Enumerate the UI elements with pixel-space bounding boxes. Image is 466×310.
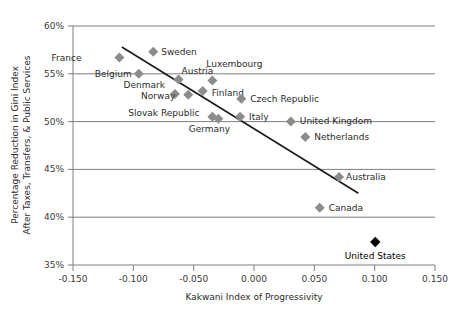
point-marker-austria xyxy=(174,75,184,85)
ytick-label-60: 60% xyxy=(44,21,64,31)
data-point: Netherlands xyxy=(300,132,369,142)
x-axis-ticks xyxy=(73,265,435,271)
data-point: Australia xyxy=(334,172,386,182)
xtick-label-4: 0.050 xyxy=(301,274,327,284)
point-label-norway: Norway xyxy=(141,91,176,101)
data-point: Luxembourg xyxy=(206,59,262,85)
scatter-chart: 60% 55% 50% 45% 40% 35% -0.150 -0.100 -0… xyxy=(0,0,466,310)
point-label-belgium: Belgium xyxy=(95,69,132,79)
point-marker-italy xyxy=(235,112,245,122)
xtick-label-6: 0.150 xyxy=(422,274,448,284)
ytick-label-40: 40% xyxy=(44,212,64,222)
xtick-label-0: -0.150 xyxy=(58,274,87,284)
chart-svg: 60% 55% 50% 45% 40% 35% -0.150 -0.100 -0… xyxy=(0,0,466,310)
xtick-label-2: -0.050 xyxy=(179,274,208,284)
point-label-germany: Germany xyxy=(189,124,231,134)
point-marker-netherlands xyxy=(300,132,310,142)
point-marker-canada xyxy=(315,203,325,213)
data-point: Belgium xyxy=(95,69,144,79)
point-label-slovak-republic: Slovak Republic xyxy=(128,108,199,118)
data-point: Slovak Republic xyxy=(128,108,217,122)
point-label-italy: Italy xyxy=(249,112,269,122)
data-point: France xyxy=(52,53,125,63)
ytick-label-45: 45% xyxy=(44,164,64,174)
point-label-sweden: Sweden xyxy=(161,47,197,57)
y-axis-title-line1: Percentage Reduction in Gini Index xyxy=(10,65,20,223)
xtick-label-5: 0.100 xyxy=(362,274,388,284)
ytick-label-50: 50% xyxy=(44,117,64,127)
point-marker-norway xyxy=(183,90,193,100)
data-point: United States xyxy=(345,237,406,261)
point-label-united-kingdom: United Kingdom xyxy=(300,116,372,126)
point-label-canada: Canada xyxy=(329,203,363,213)
point-marker-luxembourg xyxy=(207,75,217,85)
data-point: Sweden xyxy=(148,47,197,57)
x-axis-tick-labels: -0.150 -0.100 -0.050 0.000 0.050 0.100 0… xyxy=(58,274,448,284)
point-label-australia: Australia xyxy=(346,172,386,182)
point-marker-sweden xyxy=(148,47,158,57)
point-label-france: France xyxy=(52,53,82,63)
point-label-netherlands: Netherlands xyxy=(314,132,369,142)
point-label-united-states: United States xyxy=(345,251,406,261)
point-marker-australia xyxy=(334,172,344,182)
ytick-label-35: 35% xyxy=(44,260,64,270)
data-point: Italy xyxy=(235,112,269,122)
point-marker-france xyxy=(114,53,124,63)
data-points-layer: FranceSwedenBelgiumAustriaLuxembourgDenm… xyxy=(52,47,407,261)
x-axis-title: Kakwani Index of Progressivity xyxy=(185,292,323,302)
xtick-label-1: -0.100 xyxy=(119,274,148,284)
data-point: Canada xyxy=(315,203,363,213)
xtick-label-3: 0.000 xyxy=(241,274,267,284)
point-marker-united-states xyxy=(370,237,380,247)
y-axis-title-line2: After Taxes, Transfers, & Public Service… xyxy=(22,55,32,234)
point-marker-belgium xyxy=(134,69,144,79)
data-point: Finland xyxy=(198,86,244,98)
point-label-czech-republic: Czech Republic xyxy=(250,94,319,104)
ytick-label-55: 55% xyxy=(44,69,64,79)
point-marker-united-kingdom xyxy=(286,117,296,127)
point-label-denmark: Denmark xyxy=(124,80,166,90)
data-point: Czech Republic xyxy=(236,94,319,104)
data-point: Norway xyxy=(141,90,193,101)
point-label-luxembourg: Luxembourg xyxy=(206,59,262,69)
